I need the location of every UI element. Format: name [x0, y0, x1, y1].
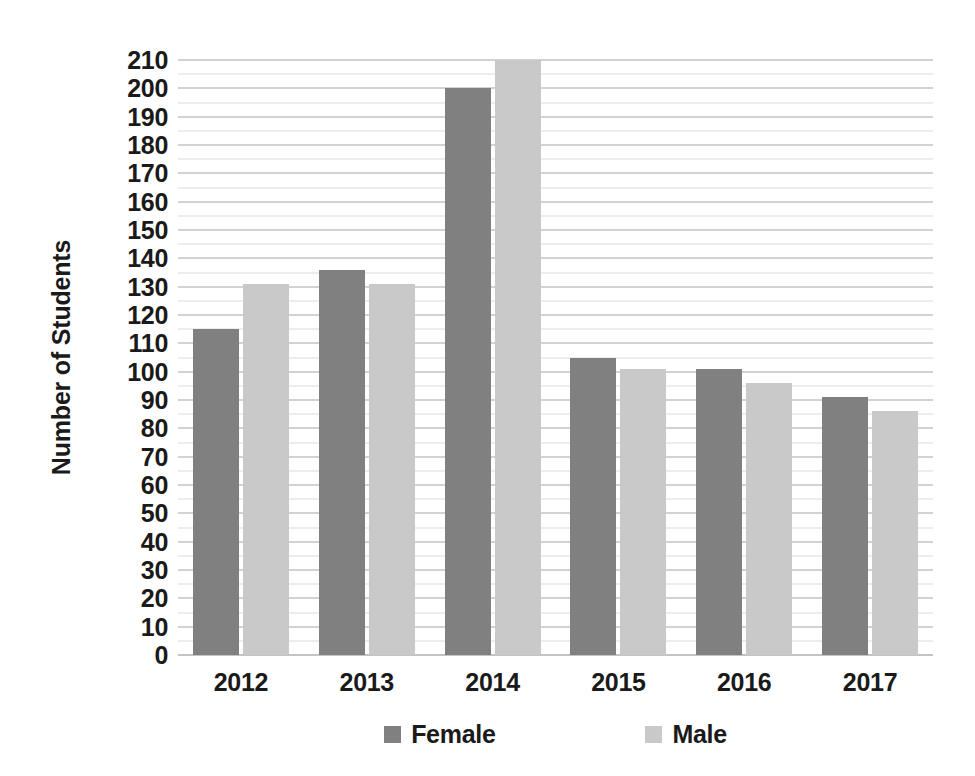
y-tick-label: 150 [96, 218, 168, 243]
bar-group [178, 60, 304, 655]
y-tick-label: 160 [96, 189, 168, 214]
bar-male-2013[interactable] [369, 284, 415, 655]
y-tick-label: 0 [96, 643, 168, 668]
x-axis-tick-labels: 201220132014201520162017 [178, 662, 933, 702]
chart-legend: FemaleMale [178, 712, 933, 756]
bar-group [304, 60, 430, 655]
bar-male-2014[interactable] [495, 60, 541, 655]
y-tick-label: 30 [96, 558, 168, 583]
bar-male-2015[interactable] [620, 369, 666, 655]
bar-female-2014[interactable] [445, 88, 491, 655]
bar-groups [178, 60, 933, 655]
legend-label: Male [672, 720, 726, 749]
y-tick-label: 80 [96, 416, 168, 441]
y-tick-label: 100 [96, 359, 168, 384]
x-tick-label: 2017 [807, 668, 933, 697]
y-tick-label: 140 [96, 246, 168, 271]
bar-chart: Number of Students 210200190180170160150… [0, 0, 975, 776]
y-tick-label: 70 [96, 444, 168, 469]
x-tick-label: 2014 [430, 668, 556, 697]
x-tick-label: 2012 [178, 668, 304, 697]
legend-item-female[interactable]: Female [384, 720, 495, 749]
y-tick-label: 180 [96, 133, 168, 158]
x-tick-label: 2016 [681, 668, 807, 697]
y-tick-label: 90 [96, 388, 168, 413]
plot-area [178, 60, 933, 655]
y-tick-label: 120 [96, 303, 168, 328]
legend-swatch-icon [384, 726, 401, 743]
y-axis-tick-labels: 2102001901801701601501401301201101009080… [96, 60, 168, 655]
x-tick-label: 2013 [304, 668, 430, 697]
bar-female-2016[interactable] [696, 369, 742, 655]
y-tick-label: 50 [96, 501, 168, 526]
x-tick-label: 2015 [555, 668, 681, 697]
y-tick-label: 200 [96, 76, 168, 101]
y-tick-label: 60 [96, 473, 168, 498]
bar-male-2012[interactable] [243, 284, 289, 655]
bar-group [681, 60, 807, 655]
legend-item-male[interactable]: Male [645, 720, 726, 749]
bar-female-2017[interactable] [822, 397, 868, 655]
y-tick-label: 190 [96, 104, 168, 129]
bar-male-2017[interactable] [872, 411, 918, 655]
y-tick-label: 210 [96, 48, 168, 73]
y-tick-label: 10 [96, 614, 168, 639]
y-tick-label: 20 [96, 586, 168, 611]
legend-swatch-icon [645, 726, 662, 743]
y-tick-label: 170 [96, 161, 168, 186]
bar-group [430, 60, 556, 655]
y-axis-title-label: Number of Students [48, 240, 77, 475]
bar-male-2016[interactable] [746, 383, 792, 655]
y-axis-title: Number of Students [42, 60, 82, 655]
legend-label: Female [411, 720, 495, 749]
y-tick-label: 110 [96, 331, 168, 356]
bar-female-2013[interactable] [319, 270, 365, 655]
bar-group [807, 60, 933, 655]
y-tick-label: 130 [96, 274, 168, 299]
bar-female-2015[interactable] [570, 358, 616, 656]
bar-group [555, 60, 681, 655]
y-tick-label: 40 [96, 529, 168, 554]
bar-female-2012[interactable] [193, 329, 239, 655]
